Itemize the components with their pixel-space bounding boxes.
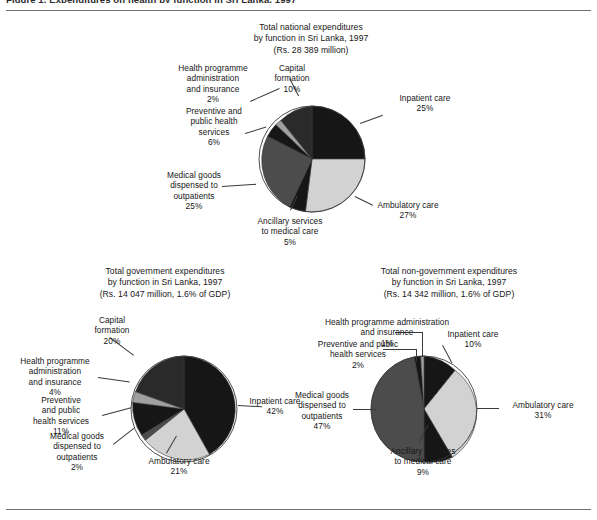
chart-non-government-title: Total non-government expenditures by fun… (341, 266, 557, 300)
label-government-ambulatory-care: Ambulatory care 21% (133, 456, 225, 477)
label-non-government-medical-goods: Medical goods dispensed to outpatients 4… (289, 390, 355, 432)
slice-inpatient-care (312, 106, 365, 159)
label-national-health-programme-admin: Health programme administration and insu… (168, 63, 258, 105)
chart-government-pie (130, 355, 238, 463)
leader-national-medical-goods (222, 184, 256, 187)
label-national-capital-formation: Capital formation 10% (266, 63, 318, 94)
leader-government-preventive (102, 407, 131, 416)
pie-svg-government (130, 355, 238, 463)
label-non-government-ancillary-services: Ancillary services to medical care 9% (373, 446, 473, 477)
label-non-government-preventive-public-health: Preventive and public health services 2% (299, 339, 417, 370)
label-national-medical-goods: Medical goods dispensed to outpatients 2… (163, 170, 225, 212)
label-government-medical-goods: Medical goods dispensed to outpatients 2… (42, 431, 112, 473)
label-non-government-inpatient-care: Inpatient care 10% (433, 329, 513, 350)
leader-non-government-ambulatory (477, 408, 499, 409)
leader-government-health-admin (98, 377, 130, 382)
label-non-government-ambulatory-care: Ambulatory care 31% (497, 400, 589, 421)
label-government-health-programme-admin: Health programme administration and insu… (12, 356, 98, 398)
label-national-ambulatory-care: Ambulatory care 27% (358, 200, 458, 221)
chart-non-government: Total non-government expenditures by fun… (297, 255, 597, 510)
leader-non-government-medical-goods (353, 409, 377, 410)
label-government-capital-formation: Capital formation 20% (86, 315, 138, 346)
label-national-ancillary-services: Ancillary services to medical care 5% (240, 216, 340, 247)
chart-national-title: Total national expenditures by function … (211, 22, 411, 56)
pie-svg-national (258, 105, 366, 213)
label-national-preventive-public-health: Preventive and public health services 6% (183, 106, 245, 148)
chart-government: Total government expenditures by functio… (0, 255, 300, 510)
chart-national: Total national expenditures by function … (0, 0, 597, 255)
chart-government-title: Total government expenditures by functio… (62, 266, 268, 300)
label-national-inpatient-care: Inpatient care 25% (382, 93, 468, 114)
slice-ambulatory-care (305, 159, 365, 212)
chart-national-pie (258, 105, 366, 213)
figure-page: Figure 1. Expenditures on health by func… (0, 0, 597, 520)
